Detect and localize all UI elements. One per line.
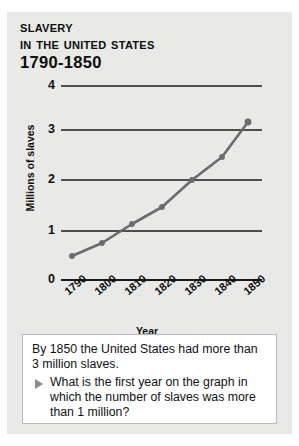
triangle-right-icon (35, 379, 43, 389)
caption-question-row: What is the first year on the graph in w… (32, 375, 267, 420)
data-point-1830 (189, 177, 195, 183)
ytick-label-0: 0 (39, 272, 55, 286)
data-point-1840 (219, 154, 225, 160)
y-axis-label: Millions of slaves (24, 123, 36, 213)
series-line (72, 122, 248, 256)
ytick-label-2: 2 (39, 172, 55, 186)
data-point-1810 (129, 221, 135, 227)
data-point-1850 (245, 119, 252, 126)
data-point-1800 (99, 240, 105, 246)
ytick-label-3: 3 (39, 122, 55, 136)
caption-lead-text: By 1850 the United States had more than … (32, 342, 267, 372)
ytick-label-4: 4 (39, 78, 55, 92)
figure-panel: Slavery in the United States 1790-1850 (7, 12, 292, 434)
gridlines (61, 86, 262, 280)
data-series (69, 119, 251, 259)
caption-question-text: What is the first year on the graph in w… (50, 375, 267, 420)
ytick-label-1: 1 (39, 223, 55, 237)
caption-box: By 1850 the United States had more than … (22, 334, 277, 424)
data-point-1790 (69, 253, 75, 259)
data-point-1820 (159, 204, 165, 210)
